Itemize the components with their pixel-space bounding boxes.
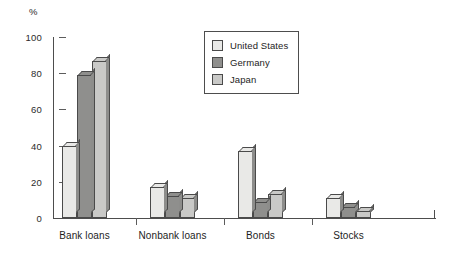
legend-swatch-united-states bbox=[212, 40, 223, 51]
bar-side-face bbox=[76, 139, 80, 213]
y-axis-tick-100: 100 bbox=[12, 32, 42, 43]
x-axis-group-tick bbox=[224, 218, 225, 225]
y-axis-tick-40: 40 bbox=[12, 140, 42, 151]
x-axis-label-bank-loans: Bank loans bbox=[59, 230, 109, 241]
legend-swatch-japan bbox=[212, 74, 223, 85]
legend: United States Germany Japan bbox=[204, 31, 299, 94]
bar-side-face bbox=[91, 68, 95, 213]
legend-label-japan: Japan bbox=[230, 74, 256, 85]
bar-group bbox=[326, 37, 381, 218]
legend-item: Japan bbox=[212, 71, 288, 88]
legend-item: United States bbox=[212, 37, 288, 54]
x-axis-group-tick bbox=[312, 218, 313, 225]
bar-side-face bbox=[106, 54, 110, 213]
x-axis-group-tick bbox=[136, 218, 137, 225]
bar-united-states-bonds bbox=[238, 151, 253, 218]
y-axis-tick-labels: 020406080100 bbox=[12, 0, 42, 256]
bar-group bbox=[150, 37, 205, 218]
bar-united-states-bank-loans bbox=[62, 146, 77, 218]
bar-chart: % 020406080100 Bank loansNonbank loansBo… bbox=[0, 0, 451, 256]
y-axis-tick-60: 60 bbox=[12, 104, 42, 115]
bar-group bbox=[62, 37, 117, 218]
y-axis-tick-0: 0 bbox=[12, 213, 42, 224]
x-axis-label-stocks: Stocks bbox=[333, 230, 364, 241]
bar-japan-stocks bbox=[356, 211, 371, 218]
bar-united-states-nonbank-loans bbox=[150, 187, 165, 218]
bar-united-states-stocks bbox=[326, 198, 341, 218]
bar-side-face bbox=[252, 144, 256, 213]
legend-item: Germany bbox=[212, 54, 288, 71]
y-axis-tick-20: 20 bbox=[12, 176, 42, 187]
x-axis-line bbox=[53, 218, 436, 219]
y-axis-tick-80: 80 bbox=[12, 68, 42, 79]
legend-swatch-germany bbox=[212, 57, 223, 68]
x-axis-label-nonbank-loans: Nonbank loans bbox=[138, 230, 206, 241]
legend-label-united-states: United States bbox=[230, 40, 288, 51]
legend-label-germany: Germany bbox=[230, 57, 270, 68]
x-axis-label-bonds: Bonds bbox=[246, 230, 275, 241]
